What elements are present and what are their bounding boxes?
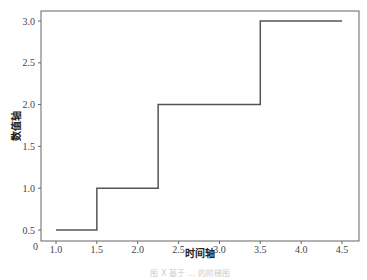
svg-text:1.0: 1.0	[23, 183, 36, 194]
svg-text:2.0: 2.0	[131, 244, 144, 255]
x-axis-label: 时间轴	[185, 247, 215, 259]
svg-text:2.5: 2.5	[172, 244, 185, 255]
svg-text:4.0: 4.0	[295, 244, 308, 255]
svg-text:1.0: 1.0	[50, 244, 63, 255]
svg-text:1.5: 1.5	[91, 244, 104, 255]
plot-frame	[41, 11, 359, 241]
figure-caption: 图 X 基于 ... 的阶梯图	[150, 268, 229, 278]
svg-text:1.5: 1.5	[23, 141, 36, 152]
svg-text:3.0: 3.0	[213, 244, 226, 255]
svg-text:0.5: 0.5	[23, 225, 36, 236]
svg-text:3.5: 3.5	[254, 244, 267, 255]
svg-text:2.5: 2.5	[23, 57, 36, 68]
svg-text:4.5: 4.5	[336, 244, 349, 255]
y-axis-ticks: 0.51.01.52.02.53.0	[23, 16, 42, 236]
svg-text:3.0: 3.0	[23, 16, 36, 27]
svg-text:2.0: 2.0	[23, 99, 36, 110]
step-line	[56, 21, 342, 230]
y-axis-label: 数值轴	[10, 111, 22, 141]
origin-label: 0	[33, 241, 38, 252]
step-chart: 0.51.01.52.02.53.0 1.01.52.02.53.03.54.0…	[0, 0, 367, 280]
